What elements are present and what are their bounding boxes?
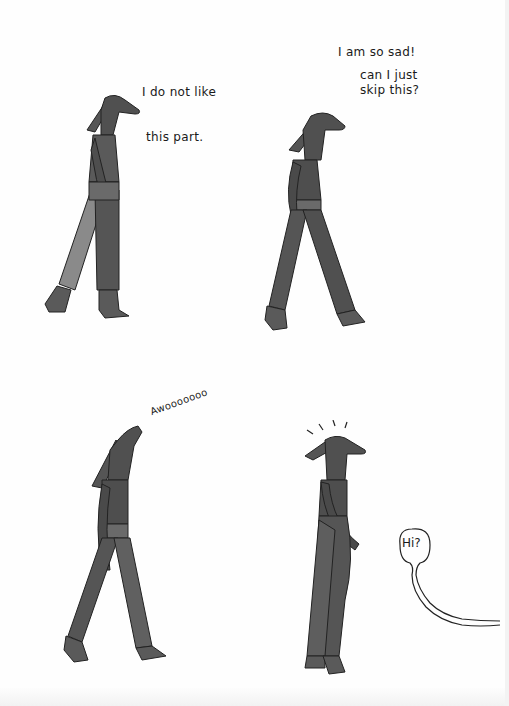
panel-2-caption-line-1: I am so sad! [338, 45, 415, 60]
panel-2-figure [255, 110, 375, 340]
page-bottom-edge [0, 688, 509, 706]
panel-3-caption: Awooooooo [148, 384, 210, 419]
panel-1-caption-line-2: this part. [142, 130, 216, 145]
panel-3-figure [62, 420, 182, 670]
surprise-lines-icon [307, 420, 347, 434]
panel-2-caption-line-2: can I just skip this? [360, 68, 419, 98]
panel-1-caption: I do not like this part. [142, 55, 216, 175]
page-right-edge [505, 0, 509, 706]
panel-4-figure [285, 420, 395, 680]
speech-balloon-text: Hi? [402, 536, 421, 550]
panel-1-caption-line-1: I do not like [142, 85, 216, 100]
comic-page: I do not like this part. I am so sad! ca… [0, 0, 509, 706]
panel-1-figure [35, 90, 145, 335]
